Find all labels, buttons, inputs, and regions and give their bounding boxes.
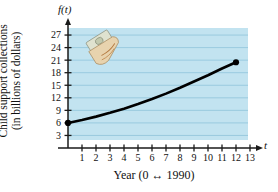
y-tick-label-12: 12 xyxy=(51,92,61,103)
x-tick-label-11: 11 xyxy=(217,152,227,163)
x-tick-label-7: 7 xyxy=(164,152,169,163)
plot-area: 369121518212427 12345678910111213 xyxy=(0,0,278,192)
y-tick-label-15: 15 xyxy=(51,80,61,91)
x-axis-arrowhead xyxy=(256,145,263,151)
y-tick-label-24: 24 xyxy=(51,42,61,53)
y-tick-label-18: 18 xyxy=(51,67,61,78)
x-tick-label-2: 2 xyxy=(94,152,99,163)
x-tick-label-9: 9 xyxy=(192,152,197,163)
x-tick-label-12: 12 xyxy=(231,152,241,163)
endpoint-marker-1 xyxy=(233,59,239,65)
x-axis-title: Year (0 ↔ 1990) xyxy=(58,168,250,183)
x-tick-label-13: 13 xyxy=(245,152,255,163)
x-tick-label-10: 10 xyxy=(203,152,213,163)
y-axis-arrowhead xyxy=(65,18,71,25)
x-tick-label-6: 6 xyxy=(150,152,155,163)
endpoint-marker-0 xyxy=(65,120,71,126)
x-tick-label-4: 4 xyxy=(122,152,127,163)
y-tick-label-9: 9 xyxy=(56,105,61,116)
y-tick-label-6: 6 xyxy=(56,117,61,128)
x-tick-label-1: 1 xyxy=(80,152,85,163)
x-tick-label-5: 5 xyxy=(136,152,141,163)
y-tick-label-21: 21 xyxy=(51,55,61,66)
y-tick-label-27: 27 xyxy=(51,29,61,40)
x-tick-label-8: 8 xyxy=(178,152,183,163)
chart-figure: Child support collections (in billions o… xyxy=(0,0,278,192)
x-tick-label-3: 3 xyxy=(108,152,113,163)
y-tick-label-3: 3 xyxy=(56,130,61,141)
